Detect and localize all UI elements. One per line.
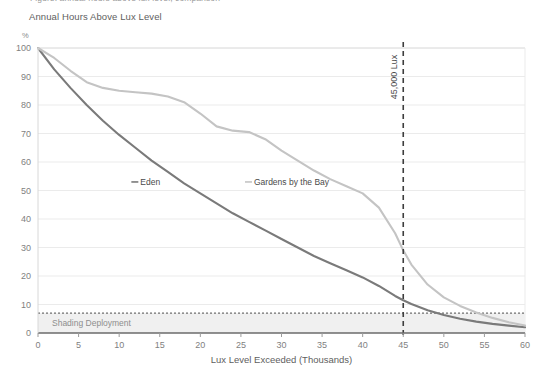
y-tick-label: 90 [21,72,31,82]
x-tick-label: 60 [520,340,530,350]
y-tick-label: 40 [21,214,31,224]
x-tick-label: 55 [479,340,489,350]
y-tick-label: 100 [16,43,31,53]
x-tick-label: 35 [317,340,327,350]
x-tick-label: 40 [358,340,368,350]
x-tick-label: 20 [195,340,205,350]
lux-threshold-label: 45,000 Lux [389,54,399,99]
shading-deployment-label: Shading Deployment [52,318,132,328]
x-tick-label: 45 [398,340,408,350]
y-tick-label: 60 [21,157,31,167]
series-label-gardens-by-the-bay: Gardens by the Bay [254,177,330,187]
x-axis-title: Lux Level Exceeded (Thousands) [211,354,353,365]
x-tick-label: 10 [114,340,124,350]
x-tick-label: 5 [76,340,81,350]
x-tick-label: 0 [35,340,40,350]
chart-container: Figure: annual hours above lux level, co… [0,0,546,369]
y-tick-label: 10 [21,300,31,310]
series-group [38,48,525,327]
y-tick-label: 80 [21,100,31,110]
gridlines-group [38,48,525,333]
x-tick-label: 25 [236,340,246,350]
x-tick-label: 50 [439,340,449,350]
y-tick-label: 20 [21,271,31,281]
y-tick-label: 0 [26,328,31,338]
y-tick-label: 70 [21,129,31,139]
y-tick-label: 50 [21,186,31,196]
threshold-marker-group: 45,000 Lux [389,42,403,336]
y-tick-label: 30 [21,243,31,253]
chart-plot-svg: Shading Deployment 45,000 Lux 0102030405… [0,0,546,369]
x-tick-label: 30 [276,340,286,350]
series-label-eden: Eden [140,177,160,187]
x-tick-label: 15 [155,340,165,350]
series-labels-group: EdenGardens by the Bay [131,177,330,187]
